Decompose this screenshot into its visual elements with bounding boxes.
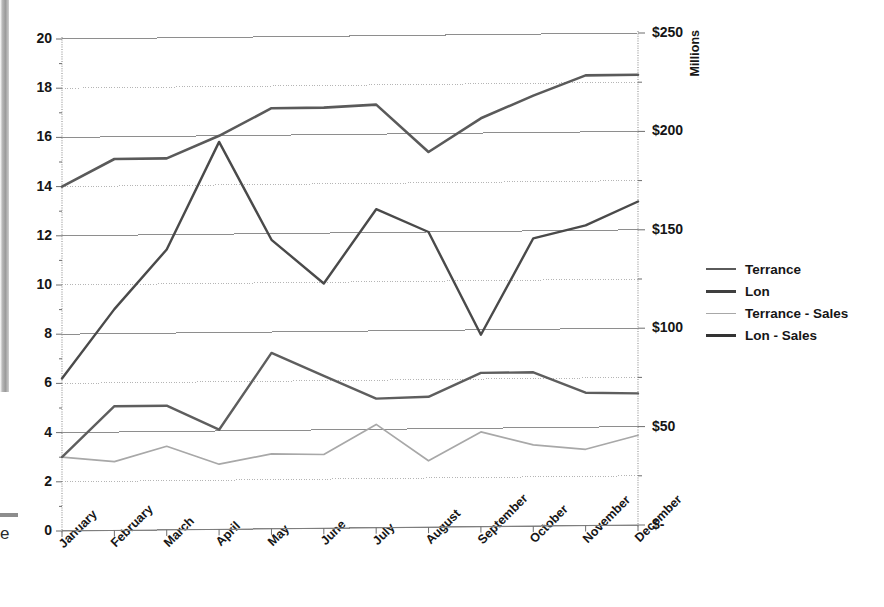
legend-item-label: Terrance bbox=[745, 262, 801, 277]
plot-area bbox=[0, 0, 700, 560]
legend-item[interactable]: Lon bbox=[706, 280, 848, 302]
legend-item[interactable]: Lon - Sales bbox=[706, 324, 848, 346]
chart-legend: TerranceLonTerrance - SalesLon - Sales bbox=[706, 258, 848, 346]
line-chart: 02468101214161820 $-$50$100$150$200$250 … bbox=[0, 0, 884, 607]
legend-item[interactable]: Terrance - Sales bbox=[706, 302, 848, 324]
legend-item-label: Lon - Sales bbox=[745, 328, 817, 343]
legend-item-label: Lon bbox=[745, 284, 770, 299]
legend-line-icon bbox=[706, 268, 736, 270]
legend-line-icon bbox=[706, 313, 736, 314]
legend-line-icon bbox=[706, 290, 736, 293]
legend-line-icon bbox=[706, 334, 736, 337]
legend-item-label: Terrance - Sales bbox=[745, 306, 848, 321]
legend-item[interactable]: Terrance bbox=[706, 258, 848, 280]
